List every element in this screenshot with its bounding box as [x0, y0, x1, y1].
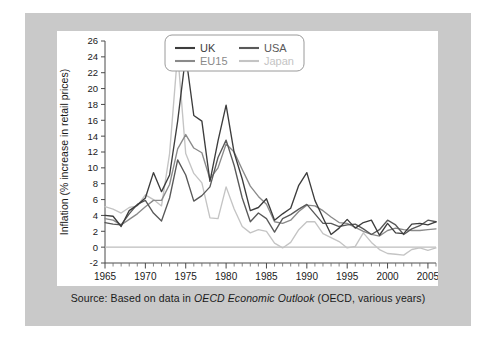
- y-tick-label: -2: [90, 257, 98, 268]
- y-tick-label: 24: [87, 51, 98, 62]
- x-tick-label: 1990: [296, 271, 319, 282]
- x-tick-label: 2000: [376, 271, 399, 282]
- caption-suffix: (OECD, various years): [315, 292, 426, 304]
- series-line-uk: [105, 55, 436, 235]
- y-tick-label: 14: [87, 131, 98, 142]
- y-tick-label: 20: [87, 83, 98, 94]
- x-tick-label: 1965: [94, 271, 117, 282]
- y-tick-label: 10: [87, 162, 98, 173]
- y-tick-label: 16: [87, 115, 98, 126]
- plot-panel: -202468101214161820222426196519701975198…: [57, 31, 438, 286]
- x-tick-label: 1975: [175, 271, 198, 282]
- legend-label-usa: USA: [264, 42, 287, 54]
- y-tick-label: 4: [93, 210, 98, 221]
- source-caption: Source: Based on data in OECD Economic O…: [25, 292, 471, 304]
- y-axis-title: Inflation (% increase in retail prices): [58, 69, 70, 235]
- y-tick-label: 18: [87, 99, 98, 110]
- x-tick-label: 1970: [134, 271, 157, 282]
- y-tick-label: 0: [93, 242, 98, 253]
- chart-legend: UKUSAEU15Japan: [165, 35, 304, 71]
- legend-label-japan: Japan: [264, 55, 294, 67]
- x-tick-label: 1985: [255, 271, 278, 282]
- y-tick-label: 26: [87, 35, 98, 46]
- legend-label-eu15: EU15: [200, 55, 228, 67]
- y-tick-label: 12: [87, 146, 98, 157]
- y-tick-label: 22: [87, 67, 98, 78]
- x-tick-label: 1995: [336, 271, 359, 282]
- y-tick-label: 8: [93, 178, 98, 189]
- legend-label-uk: UK: [200, 42, 216, 54]
- x-tick-label: 2005: [417, 271, 438, 282]
- caption-title: OECD Economic Outlook: [194, 292, 315, 304]
- line-chart: -202468101214161820222426196519701975198…: [57, 31, 438, 286]
- y-tick-label: 6: [93, 194, 98, 205]
- figure-container: -202468101214161820222426196519701975198…: [0, 0, 496, 342]
- caption-prefix: Source: Based on data in: [71, 292, 194, 304]
- y-tick-label: 2: [93, 226, 98, 237]
- series-line-usa: [105, 140, 436, 234]
- x-tick-label: 1980: [215, 271, 238, 282]
